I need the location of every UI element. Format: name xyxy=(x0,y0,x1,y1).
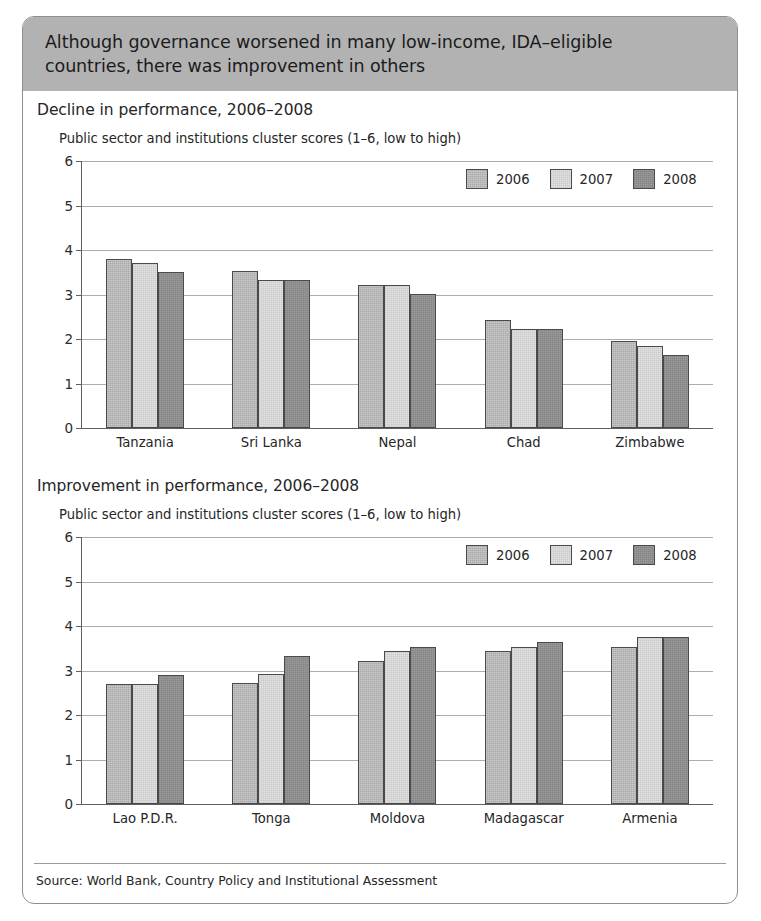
y-axis-tick-label: 3 xyxy=(64,287,73,303)
bar-2007 xyxy=(511,647,537,804)
bars-layer: TanzaniaSri LankaNepalChadZimbabwe xyxy=(82,161,713,428)
bar-2008 xyxy=(158,272,184,428)
legend-item-2008: 2008 xyxy=(633,545,697,565)
bar-2007 xyxy=(637,637,663,804)
bar-2006 xyxy=(485,651,511,804)
figure-frame: Although governance worsened in many low… xyxy=(22,16,738,904)
figure-header: Although governance worsened in many low… xyxy=(23,17,737,91)
bar-group: Madagascar xyxy=(461,537,587,804)
bar-2008 xyxy=(284,656,310,804)
x-axis-category-label: Moldova xyxy=(334,811,460,826)
bar-2006 xyxy=(611,341,637,428)
bar-group: Tanzania xyxy=(82,161,208,428)
x-axis-category-label: Armenia xyxy=(587,811,713,826)
bar-2008 xyxy=(410,294,436,428)
bar-2008 xyxy=(537,642,563,804)
x-axis-category-label: Tonga xyxy=(208,811,334,826)
bar-group: Nepal xyxy=(334,161,460,428)
y-axis-tick-label: 5 xyxy=(64,198,73,214)
legend-item-2007: 2007 xyxy=(550,545,614,565)
source-divider xyxy=(34,863,726,864)
legend-label: 2006 xyxy=(496,172,530,187)
bar-2007 xyxy=(384,285,410,428)
bar-2008 xyxy=(537,329,563,428)
bar-2006 xyxy=(232,271,258,428)
bar-group: Moldova xyxy=(334,537,460,804)
x-axis-category-label: Madagascar xyxy=(461,811,587,826)
legend-item-2006: 2006 xyxy=(466,545,530,565)
chart-legend-decline: 200620072008 xyxy=(466,169,697,189)
y-axis-tick-label: 4 xyxy=(64,618,73,634)
bar-group: Sri Lanka xyxy=(208,161,334,428)
x-axis-category-label: Tanzania xyxy=(82,435,208,450)
bar-group: Tonga xyxy=(208,537,334,804)
bar-group: Lao P.D.R. xyxy=(82,537,208,804)
bar-2006 xyxy=(485,320,511,428)
chart-subtitle-improvement: Public sector and institutions cluster s… xyxy=(59,507,461,522)
figure-header-line-1: Although governance worsened in many low… xyxy=(45,30,709,54)
bar-2008 xyxy=(158,675,184,804)
legend-label: 2008 xyxy=(663,172,697,187)
y-axis-tick-label: 6 xyxy=(64,153,73,169)
bar-2006 xyxy=(358,661,384,804)
y-axis-tick-label: 1 xyxy=(64,376,73,392)
gridline xyxy=(81,804,713,805)
gridline xyxy=(81,428,713,429)
bar-2008 xyxy=(284,280,310,428)
legend-label: 2008 xyxy=(663,548,697,563)
bar-2007 xyxy=(637,346,663,428)
bar-2007 xyxy=(132,684,158,804)
legend-label: 2007 xyxy=(580,548,614,563)
bar-2006 xyxy=(611,647,637,804)
legend-label: 2006 xyxy=(496,548,530,563)
bar-2008 xyxy=(663,355,689,428)
bars-layer: Lao P.D.R.TongaMoldovaMadagascarArmenia xyxy=(82,537,713,804)
bar-2006 xyxy=(106,684,132,804)
bar-2007 xyxy=(132,263,158,428)
chart-subtitle-decline: Public sector and institutions cluster s… xyxy=(59,131,461,146)
legend-swatch-2006 xyxy=(466,169,488,189)
figure-header-line-2: countries, there was improvement in othe… xyxy=(45,54,709,78)
y-tick-mark xyxy=(76,428,81,429)
bar-2006 xyxy=(106,259,132,428)
legend-item-2006: 2006 xyxy=(466,169,530,189)
chart-title-decline: Decline in performance, 2006–2008 xyxy=(37,101,313,119)
y-axis-tick-label: 2 xyxy=(64,331,73,347)
legend-swatch-2006 xyxy=(466,545,488,565)
legend-swatch-2007 xyxy=(550,169,572,189)
y-axis-tick-label: 3 xyxy=(64,663,73,679)
legend-swatch-2007 xyxy=(550,545,572,565)
x-axis-category-label: Sri Lanka xyxy=(208,435,334,450)
y-axis-tick-label: 0 xyxy=(64,796,73,812)
legend-item-2008: 2008 xyxy=(633,169,697,189)
x-axis-category-label: Nepal xyxy=(334,435,460,450)
bar-group: Chad xyxy=(461,161,587,428)
bar-2006 xyxy=(232,683,258,804)
bar-2008 xyxy=(410,647,436,804)
bar-group: Zimbabwe xyxy=(587,161,713,428)
chart-title-improvement: Improvement in performance, 2006–2008 xyxy=(37,477,359,495)
bar-2007 xyxy=(258,280,284,428)
plot-area-improvement: 0123456Lao P.D.R.TongaMoldovaMadagascarA… xyxy=(81,537,713,804)
bar-2007 xyxy=(384,651,410,804)
bar-2007 xyxy=(258,674,284,804)
legend-swatch-2008 xyxy=(633,545,655,565)
y-axis-tick-label: 1 xyxy=(64,752,73,768)
legend-label: 2007 xyxy=(580,172,614,187)
x-axis-category-label: Chad xyxy=(461,435,587,450)
y-tick-mark xyxy=(76,804,81,805)
bar-2006 xyxy=(358,285,384,428)
x-axis-category-label: Lao P.D.R. xyxy=(82,811,208,826)
chart-panel-decline: Decline in performance, 2006–2008 Public… xyxy=(23,101,737,491)
source-note: Source: World Bank, Country Policy and I… xyxy=(36,873,437,888)
y-axis-tick-label: 2 xyxy=(64,707,73,723)
y-axis-tick-label: 0 xyxy=(64,420,73,436)
chart-panel-improvement: Improvement in performance, 2006–2008 Pu… xyxy=(23,477,737,867)
plot-area-decline: 0123456TanzaniaSri LankaNepalChadZimbabw… xyxy=(81,161,713,428)
y-axis-tick-label: 4 xyxy=(64,242,73,258)
bar-2008 xyxy=(663,637,689,804)
legend-item-2007: 2007 xyxy=(550,169,614,189)
chart-legend-improvement: 200620072008 xyxy=(466,545,697,565)
y-axis-tick-label: 5 xyxy=(64,574,73,590)
bar-group: Armenia xyxy=(587,537,713,804)
